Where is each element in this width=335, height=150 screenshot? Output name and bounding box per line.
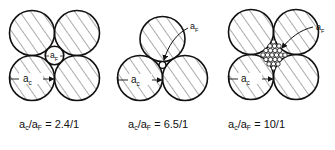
coarse-particle [163, 56, 208, 101]
diagram-triangular-packing: aF ac [118, 17, 208, 101]
diagram-square-packing-fine-fill: aF ac [229, 10, 326, 100]
fine-diameter-label: aF [190, 21, 199, 33]
ratio-value: = 10/1 [254, 118, 285, 130]
fine-diameter-label: aF [316, 22, 325, 34]
ratio-value: = 6.5/1 [154, 118, 188, 130]
ratio-caption-3: ac/aF = 10/1 [228, 118, 285, 131]
ratio-value: = 2.4/1 [45, 118, 79, 130]
coarse-particle [229, 10, 274, 55]
coarse-particle [140, 17, 185, 62]
ratio-caption-2: ac/aF = 6.5/1 [128, 118, 188, 131]
diagram-square-packing: aF ac [10, 11, 100, 101]
fine-particle [159, 62, 166, 69]
ratio-caption-1: ac/aF = 2.4/1 [19, 118, 79, 131]
